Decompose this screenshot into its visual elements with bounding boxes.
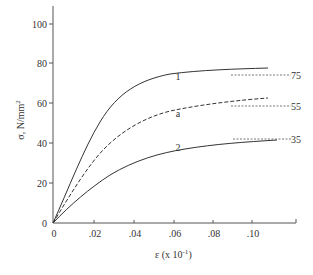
x-tick-label: .06: [169, 228, 182, 239]
x-tick-label: .08: [208, 228, 221, 239]
y-axis-title: σ, N/mm2: [14, 100, 26, 140]
curve-2: [53, 140, 277, 223]
asymptote-label-35: 35: [291, 134, 301, 145]
curve-labels: 1 a 2: [176, 71, 181, 153]
x-tick-label: .04: [129, 228, 142, 239]
y-tick-label: 80: [37, 58, 47, 69]
x-tick-label: .10: [247, 228, 260, 239]
x-tick-label: 0: [52, 228, 57, 239]
asymptotes: [231, 75, 291, 139]
asymptote-label-55: 55: [291, 101, 301, 112]
y-tick-label: 100: [32, 19, 47, 30]
asymptote-labels: 75 55 35: [291, 70, 301, 145]
stress-strain-chart: 0 20 40 60 80 100 0 .02 .04 .06 .08 .10 …: [0, 0, 313, 275]
x-axis-title: ε (x 10-1): [155, 248, 192, 261]
curve-1: [53, 68, 268, 223]
asymptote-label-75: 75: [291, 70, 301, 81]
curve-1-label: 1: [176, 71, 181, 82]
curve-a: [53, 98, 268, 223]
y-tick-labels: 0 20 40 60 80 100: [32, 19, 47, 229]
y-tick-label: 40: [37, 138, 47, 149]
axes: [53, 6, 296, 223]
curves: [53, 68, 277, 223]
x-tick-label: .02: [89, 228, 102, 239]
x-tick-labels: 0 .02 .04 .06 .08 .10: [52, 228, 260, 239]
curve-2-label: 2: [176, 142, 181, 153]
y-tick-label: 20: [37, 178, 47, 189]
y-tick-label: 60: [37, 98, 47, 109]
x-ticks: [94, 219, 296, 223]
y-tick-label: 0: [42, 218, 47, 229]
y-ticks: [49, 24, 53, 183]
curve-a-label: a: [176, 108, 181, 119]
